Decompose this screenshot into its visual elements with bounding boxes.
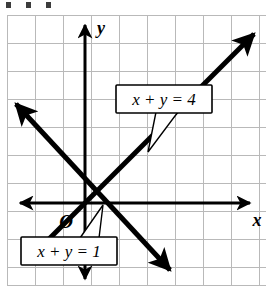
callout-label-1: x + y = 1 [36,242,101,261]
x-axis-label: x [252,210,262,230]
callout-x-plus-y-equals-1: x + y = 1 [21,237,117,265]
origin-label: O [59,211,73,232]
coordinate-graph-figure: O x y x + y = 4 x + y = 1 [0,0,272,293]
callout-label-4: x + y = 4 [131,90,196,109]
y-axis-label: y [95,18,106,38]
callout-x-plus-y-equals-4: x + y = 4 [116,85,212,113]
graph-canvas: O x y x + y = 4 x + y = 1 [0,0,272,293]
